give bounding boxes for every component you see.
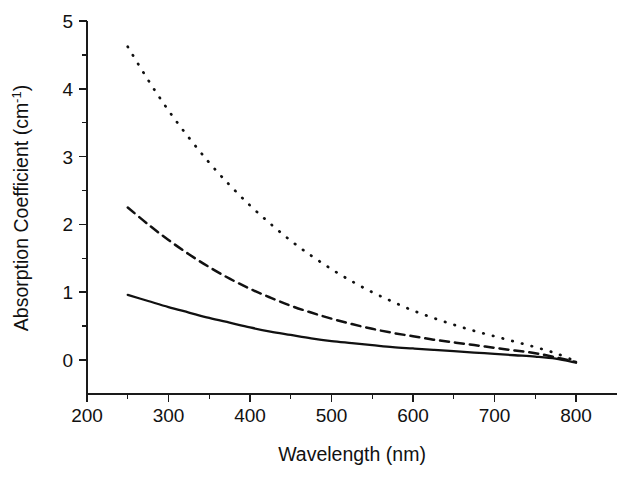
x-axis-ticks: 200300400500600700800 (71, 394, 592, 426)
axes (87, 21, 617, 394)
x-tick-label: 600 (397, 405, 429, 426)
plot-area: 012345 200300400500600700800 Wavelength … (0, 0, 633, 477)
x-tick-label: 700 (479, 405, 511, 426)
y-axis-title-main: Absorption Coefficient (cm (10, 103, 32, 331)
series-lower-curve (128, 295, 576, 363)
x-axis-title: Wavelength (nm) (278, 443, 426, 465)
y-tick-label: 3 (62, 147, 73, 168)
x-tick-label: 300 (153, 405, 185, 426)
y-tick-label: 2 (62, 214, 73, 235)
y-tick-label: 5 (62, 11, 73, 32)
x-tick-label: 400 (234, 405, 266, 426)
y-axis-title-superscript: -1 (9, 91, 24, 103)
y-axis-title: Absorption Coefficient (cm-1) (9, 85, 33, 331)
data-series-group (128, 47, 576, 363)
y-axis-title-tail: ) (10, 85, 32, 92)
y-tick-label: 4 (62, 79, 73, 100)
x-tick-label: 800 (560, 405, 592, 426)
x-tick-label: 200 (71, 405, 103, 426)
x-tick-label: 500 (316, 405, 348, 426)
y-tick-label: 1 (62, 282, 73, 303)
y-axis-ticks: 012345 (62, 11, 87, 371)
series-middle-curve (128, 207, 576, 362)
y-tick-label: 0 (62, 350, 73, 371)
absorption-coefficient-chart: 012345 200300400500600700800 Wavelength … (0, 0, 633, 477)
